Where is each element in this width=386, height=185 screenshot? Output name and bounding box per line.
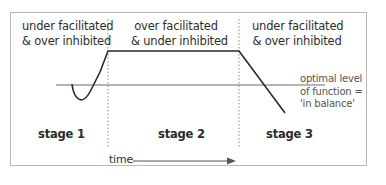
region-1-header-line1: under facilitated xyxy=(22,19,102,34)
region-1-header-line2: & over inhibited xyxy=(22,34,102,49)
optimal-label-line1: optimal level xyxy=(300,73,363,86)
function-curve xyxy=(72,51,285,113)
optimal-label-line2: of function = xyxy=(300,86,363,99)
region-3-header-line1: under facilitated xyxy=(252,19,342,34)
optimal-level-label: optimal level of function = 'in balance' xyxy=(300,73,363,111)
region-2-header: over facilitated & under inhibited xyxy=(131,19,221,49)
region-2-header-line1: over facilitated xyxy=(131,19,221,34)
region-2-header-line2: & under inhibited xyxy=(131,34,221,49)
optimal-label-line3: 'in balance' xyxy=(300,98,363,111)
stage-3-label: stage 3 xyxy=(266,127,313,141)
stage-2-label: stage 2 xyxy=(158,127,205,141)
region-3-header-line2: & over inhibited xyxy=(252,34,342,49)
region-3-header: under facilitated & over inhibited xyxy=(252,19,342,49)
time-arrow-head-icon xyxy=(227,158,236,165)
stage-1-label: stage 1 xyxy=(38,127,85,141)
region-1-header: under facilitated & over inhibited xyxy=(22,19,102,49)
time-axis-label: time xyxy=(109,153,133,166)
